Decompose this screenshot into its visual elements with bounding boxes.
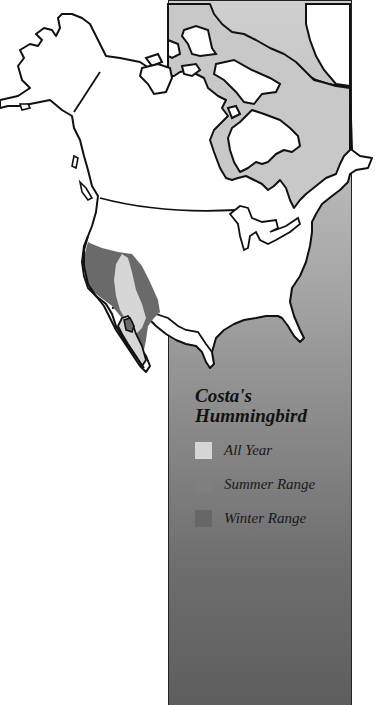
- legend-item-winter-range: Winter Range: [195, 508, 355, 528]
- legend-title: Costa's Hummingbird: [195, 386, 355, 426]
- legend-title-line1: Costa's: [195, 386, 355, 406]
- all-year-swatch: [195, 442, 212, 459]
- arctic-island-4: [306, 4, 350, 86]
- legend-item-summer-range: Summer Range: [195, 474, 355, 494]
- map-legend: Costa's Hummingbird All Year Summer Rang…: [195, 386, 355, 542]
- coastal-island-2: [80, 182, 92, 200]
- alaska-island: [20, 104, 30, 110]
- legend-item-all-year: All Year: [195, 440, 355, 460]
- coastal-island-1: [72, 156, 78, 168]
- legend-label: Summer Range: [224, 476, 315, 493]
- range-map: [0, 0, 382, 705]
- legend-label: Winter Range: [224, 510, 306, 527]
- summer-range-swatch: [195, 476, 212, 493]
- legend-title-line2: Hummingbird: [195, 406, 355, 426]
- legend-label: All Year: [224, 442, 272, 459]
- winter-range-swatch: [195, 510, 212, 527]
